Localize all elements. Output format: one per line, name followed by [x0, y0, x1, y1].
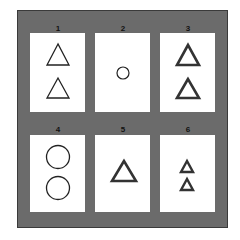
panel-2 — [95, 33, 150, 112]
panel-label-2: 2 — [113, 25, 133, 33]
panel-3 — [160, 33, 215, 112]
panel-label-3: 3 — [178, 25, 198, 33]
panel-label-4: 4 — [48, 126, 68, 134]
panel-1 — [30, 33, 85, 112]
panel-label-6: 6 — [178, 126, 198, 134]
panel-4 — [30, 135, 85, 212]
panel-label-1: 1 — [48, 25, 68, 33]
panel-label-5: 5 — [113, 126, 133, 134]
panel-6 — [160, 135, 215, 212]
panel-5 — [95, 135, 150, 212]
